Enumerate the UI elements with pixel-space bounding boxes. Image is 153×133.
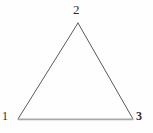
vertex-label-2: 2 (73, 3, 80, 16)
vertex-label-3: 3 (136, 110, 142, 123)
triangle-edge-1-2 (18, 23, 78, 119)
triangle-edge-2-3 (78, 23, 133, 119)
vertex-label-1: 1 (2, 110, 8, 123)
triangle-shape (0, 0, 153, 133)
triangle-figure: 1 2 3 (0, 0, 153, 133)
